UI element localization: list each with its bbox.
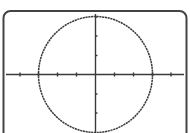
calculator-graph-screen: x^2 + y^2 = 9 bbox=[0, 0, 190, 133]
graph-plot bbox=[0, 0, 190, 133]
